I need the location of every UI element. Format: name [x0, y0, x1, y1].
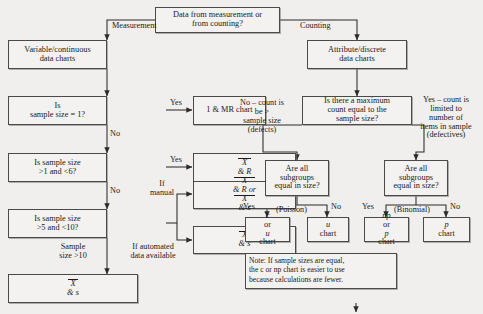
decision-subgroups-equal-size-right: Are all subgroups equal in size? [384, 160, 448, 196]
decision-sample-size-1-to-6: Is sample size >1 and <6? [8, 153, 107, 182]
np-or-p-chart-line2: chart [378, 238, 395, 247]
edge-label-if-automated: If automated data available [120, 243, 186, 261]
p-chart-rest: chart [438, 230, 455, 239]
edge-label-yes-size1: Yes [170, 99, 182, 108]
c-or-u-chart-line2: chart [259, 238, 276, 247]
variable-charts-line2: data charts [24, 55, 90, 64]
node-u-chart: u chart [307, 217, 349, 242]
node-variable-continuous-charts: Variable/continuous data charts [8, 40, 107, 69]
no-count-line4: (defects) [226, 126, 298, 135]
node-root-question: Data from measurement or from counting? [155, 7, 280, 33]
root-line2: from counting? [173, 20, 262, 29]
decision-subgroups-equal-size-left: Are all subgroups equal in size? [265, 160, 329, 196]
edge-label-sample-size-gt-10: Sample size >10 [42, 243, 104, 261]
edge-label-no-count-defects: No – count is be > sample size (defects) [226, 99, 298, 134]
note-line3: because calculations are fewer. [249, 275, 393, 284]
if-automated-line2: data available [120, 252, 186, 261]
edge-label-counting: Counting [300, 22, 330, 31]
d-maxcount-line3: sample size? [324, 115, 390, 124]
note-box: Note: If sample sizes are equal, the c o… [245, 253, 397, 289]
edge-label-measurement: Measurement [112, 22, 157, 31]
d-subgroups-right-line3: equal in size? [393, 182, 438, 191]
edge-label-if-manual: If manual [145, 180, 179, 198]
d-size1-line2: sample size = 1? [30, 111, 85, 120]
sample-size-gt10-line2: size >10 [42, 252, 104, 261]
xbar-s-final-rest: & s [67, 289, 79, 298]
note-line1: Note: If sample sizes are equal, [249, 256, 393, 265]
xbar-r-symbol: X [238, 159, 252, 168]
node-xbar-and-s-chart-final: X & s [8, 274, 138, 303]
flowchart-canvas: Data from measurement or from counting? … [0, 0, 483, 314]
node-c-or-u-chart: c or u chart [245, 217, 290, 242]
if-manual-line2: manual [145, 189, 179, 198]
u-chart-line2: chart [320, 230, 337, 239]
edge-label-yes-binomial: Yes [362, 203, 374, 212]
attribute-charts-line2: data charts [328, 55, 386, 64]
edge-label-no-size1: No [110, 130, 120, 139]
decision-sample-size-equals-1: Is sample size = 1? [8, 96, 107, 125]
edge-label-yes-poisson: Yes [243, 203, 255, 212]
xbar-s-final-symbol: X [67, 280, 79, 289]
decision-maximum-count-equals-sample-size: Is there a maximum count equal to the sa… [302, 96, 412, 125]
d-size5to10-line2: >5 and <10? [34, 224, 81, 233]
note-line2: the c or np chart is easier to use [249, 265, 393, 274]
d-subgroups-left-line3: equal in size? [274, 182, 319, 191]
xbar-r-or-s-line1-symbol: X [233, 177, 256, 186]
edge-label-poisson: (Poisson) [276, 206, 307, 215]
node-attribute-discrete-charts: Attribute/discrete data charts [307, 40, 407, 69]
yes-count-line5: (defectives) [410, 131, 482, 140]
edge-label-no-size1to6: No [110, 187, 120, 196]
edge-label-yes-size1to6: Yes [170, 156, 182, 165]
edge-label-no-binomial: No [450, 203, 460, 212]
decision-sample-size-5-to-10: Is sample size >5 and <10? [8, 209, 107, 238]
edge-label-yes-count-defectives: Yes – count is limited to number of item… [410, 96, 482, 140]
edge-label-binomial: (Binomial) [394, 206, 430, 215]
edge-label-no-poisson: No [331, 203, 341, 212]
d-size1to6-line2: >1 and <6? [34, 168, 81, 177]
node-np-or-p-chart: np or p chart [364, 217, 409, 242]
node-p-chart: p chart [423, 217, 470, 242]
